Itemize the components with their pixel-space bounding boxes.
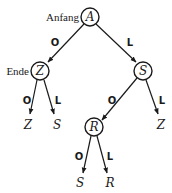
- edge-label-z1-s2: L: [55, 95, 62, 106]
- edge-z1-s2: [44, 80, 54, 114]
- leaf-s3: S: [76, 176, 84, 190]
- node-r1: R: [85, 118, 103, 136]
- edge-label-r1-s3: O: [75, 151, 84, 162]
- node-r1-label: R: [88, 120, 98, 134]
- leaf-z3: Z: [156, 118, 166, 132]
- node-a-label: A: [85, 10, 95, 24]
- edge-label-s1-z3: L: [159, 95, 166, 106]
- anfang-label: Anfang: [46, 11, 79, 23]
- edge-s1-z3: [146, 80, 158, 114]
- tree-diagram: O L O L O L O L A Anfang Z Ende S R Z S …: [0, 0, 172, 193]
- edge-label-s1-r1: O: [108, 95, 117, 106]
- node-z1-label: Z: [35, 64, 45, 78]
- node-z1: Z: [31, 62, 49, 80]
- edge-label-z1-z2: O: [23, 95, 32, 106]
- edge-label-a-z1: O: [51, 37, 60, 48]
- edge-r1-s3: [83, 136, 91, 173]
- edge-label-r1-r2: L: [107, 151, 114, 162]
- node-s1-label: S: [139, 64, 147, 78]
- node-a: A: [81, 8, 99, 26]
- ende-label: Ende: [6, 65, 29, 77]
- edge-r1-r2: [97, 136, 107, 173]
- node-s1: S: [134, 62, 152, 80]
- leaf-s2: S: [53, 118, 61, 132]
- leaf-r2: R: [104, 176, 114, 190]
- leaf-z2: Z: [23, 118, 33, 132]
- edge-label-a-s1: L: [127, 37, 134, 48]
